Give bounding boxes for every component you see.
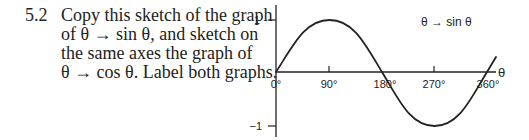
sine-graph: 1 −1 0° 90° 180° 270° 360° θ θ → sin θ [0,0,529,140]
x-tick-label-0: 0° [271,78,282,90]
y-tick-label-1: 1 [254,14,260,26]
curve-label: θ → sin θ [421,15,472,29]
y-tick-label-neg1: −1 [249,120,262,132]
x-tick-label-270: 270° [423,78,446,90]
x-tick-label-180: 180° [374,78,397,90]
x-axis-label: θ [498,65,505,80]
sine-curve [276,20,496,126]
x-tick-label-90: 90° [321,78,338,90]
